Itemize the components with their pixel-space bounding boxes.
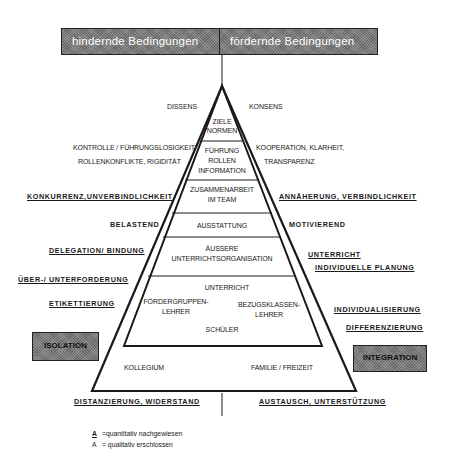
level-teamwork: ZUSAMMENARBEIT IM TEAM [190, 185, 254, 205]
legend-marker-plain: A [92, 441, 102, 448]
level-text: INFORMATION [198, 166, 245, 176]
legend-text: =quantitativ nachgewiesen [102, 430, 182, 437]
level-text: ÄUSSERE [171, 244, 272, 254]
legend-text: = qualitativ erschlossen [102, 441, 173, 448]
individual-planning-label: INDIVIDUELLE PLANUNG [315, 263, 414, 272]
cooperation-label: KOOPERATION, KLARHEIT, [256, 144, 344, 151]
distancing-label: DISTANZIERUNG, WIDERSTAND [74, 397, 200, 406]
level-text: ROLLEN [198, 156, 245, 166]
base-family-leisure: FAMILIE / FREIZEIT [251, 364, 313, 371]
level-text: ZIELE [207, 117, 238, 126]
level-text: FÖRDERGRUPPEN- [143, 297, 208, 307]
role-conflict-label: ROLLENKONFLIKTE, RIGIDITÄT [78, 158, 181, 165]
approach-label: ANNÄHERUNG, VERBINDLICHKEIT [279, 192, 417, 201]
individualization-label: INDIVIDUALISIERUNG [334, 305, 421, 314]
differentiation-label: DIFFERENZIERUNG [346, 323, 423, 332]
consensus-label: KONSENS [249, 103, 283, 110]
teaching-label: UNTERRICHT [308, 250, 361, 259]
over-under-demand-label: ÜBER-/ UNTERFORDERUNG [18, 275, 128, 284]
legend-quantitative: A=quantitativ nachgewiesen [92, 430, 182, 437]
level-organisation: ÄUSSERE UNTERRICHTSORGANISATION [171, 244, 272, 264]
integration-box: INTEGRATION [353, 345, 427, 372]
level-text: ZUSAMMENARBEIT [190, 185, 254, 195]
level-text: NORMEN [207, 126, 238, 135]
dissent-label: DISSENS [167, 103, 197, 110]
level-students: SCHÜLER [206, 326, 239, 333]
level-goals: ZIELE NORMEN [207, 117, 238, 135]
legend-qualitative: A= qualitativ erschlossen [92, 441, 173, 448]
level-text: LEHRER [238, 310, 300, 320]
isolation-box: ISOLATION [32, 332, 99, 361]
level-text: UNTERRICHTSORGANISATION [171, 254, 272, 264]
level-text: IM TEAM [190, 195, 254, 205]
level-text: LEHRER [143, 307, 208, 317]
motivating-label: MOTIVIEREND [289, 220, 346, 229]
delegation-label: DELEGATION/ BINDUNG [49, 246, 145, 255]
level-leadership: FÜHRUNG ROLLEN INFORMATION [198, 146, 245, 176]
level-equipment: AUSSTATTUNG [197, 222, 247, 229]
legend-marker-bold: A [92, 430, 102, 437]
level-text: FÜHRUNG [198, 146, 245, 156]
transparency-label: TRANSPARENZ [264, 158, 315, 165]
control-label: KONTROLLE / FÜHRUNGSLOSIGKEIT [73, 144, 195, 151]
level-support-group-teacher: FÖRDERGRUPPEN- LEHRER [143, 297, 208, 317]
competition-label: KONKURRENZ,UNVERBINDLICHKEIT [27, 192, 173, 201]
labeling-label: ETIKETTIERUNG [49, 299, 115, 308]
level-class-teacher: BEZUGSKLASSEN- LEHRER [238, 300, 300, 320]
burdensome-label: BELASTEND [110, 220, 159, 229]
level-text: BEZUGSKLASSEN- [238, 300, 300, 310]
exchange-support-label: AUSTAUSCH, UNTERSTÜTZUNG [259, 397, 386, 406]
level-teaching-title: UNTERRICHT [205, 284, 250, 291]
base-staff: KOLLEGIUM [124, 364, 164, 371]
level-text: AUSSTATTUNG [197, 222, 247, 229]
